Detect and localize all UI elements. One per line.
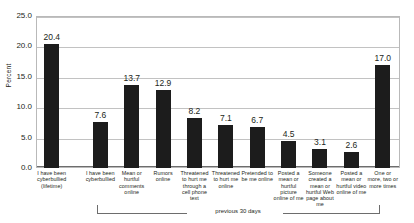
x-axis-category-label: Threatened to hurt me online: [210, 170, 242, 189]
x-axis-category-label: Mean or hurtful comments online: [116, 170, 148, 195]
bar-value-label: 12.9: [145, 79, 181, 88]
y-axis-tick-label: 0.0: [2, 164, 32, 172]
x-axis-category-label: Someone created a mean or hurtful Web pa…: [304, 170, 336, 208]
bar: [44, 44, 59, 168]
x-axis-category-label: Rumors online: [147, 170, 179, 183]
x-axis-category-label: Threatened to hurt me through a cell pho…: [178, 170, 210, 201]
previous-30-days-bracket: previous 30 days: [97, 205, 380, 214]
bar: [187, 118, 202, 168]
y-axis-tick-label: 20.0: [2, 42, 32, 50]
x-axis-category-label: I have been cyberbullied (lifetime): [36, 170, 68, 189]
bar-value-label: 2.6: [333, 141, 369, 150]
y-axis-tick-label: 15.0: [2, 73, 32, 81]
x-axis-category-label: I have been cyberbullied: [84, 170, 116, 183]
bar-value-label: 20.4: [34, 33, 70, 42]
bar: [250, 127, 265, 168]
bar: [218, 125, 233, 168]
y-axis-tick-label: 5.0: [2, 134, 32, 142]
bar: [281, 141, 296, 168]
bar-value-label: 17.0: [365, 54, 401, 63]
bar: [375, 65, 390, 168]
bar: [312, 149, 327, 168]
bar-value-label: 6.7: [239, 116, 275, 125]
bracket-line-right: [280, 213, 380, 214]
y-axis-tick-label: 10.0: [2, 103, 32, 111]
x-axis-category-label: Posted a mean or hurtful video online of…: [335, 170, 367, 195]
x-axis-category-label: Posted a mean or hurtful picture online …: [273, 170, 305, 201]
x-axis-category-label: One or more, two or more times: [367, 170, 399, 189]
bar-chart: Percent 25.020.015.010.05.00.0 20.47.613…: [0, 0, 414, 223]
bracket-line-left: [97, 213, 187, 214]
bar: [93, 122, 108, 168]
bar: [344, 152, 359, 168]
x-axis-category-label: Pretended to be me online: [241, 170, 273, 183]
y-axis-tick-label: 25.0: [2, 12, 32, 20]
bracket-label: previous 30 days: [193, 208, 283, 215]
bars-layer: 20.47.613.712.98.27.16.74.53.12.617.0: [36, 16, 400, 168]
bar: [156, 90, 171, 168]
bar: [124, 85, 139, 168]
bar-value-label: 7.6: [82, 111, 118, 120]
